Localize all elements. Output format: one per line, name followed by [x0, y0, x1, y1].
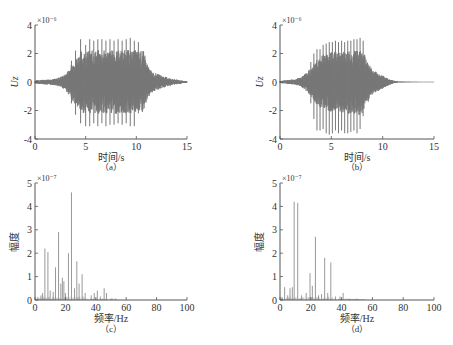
- chart-panel-a: 051015-4-2024×10⁻⁶时间/sUz（a）: [9, 16, 192, 172]
- x-tick-label: 80: [398, 302, 408, 313]
- y-tick-label: 0: [272, 77, 277, 88]
- y-tick-label: 2: [27, 48, 32, 59]
- y-tick-label: 0: [272, 295, 277, 306]
- x-tick-label: 5: [329, 141, 334, 152]
- y-exponent: ×10⁻⁶: [37, 16, 57, 25]
- x-tick-label: 0: [278, 302, 283, 313]
- x-axis-label: 频率/Hz: [340, 312, 375, 324]
- chart-panel-d: 020406080100012345×10⁻⁷频率/Hz幅度（d）: [253, 174, 442, 334]
- x-tick-label: 60: [121, 302, 131, 313]
- y-tick-label: -2: [269, 105, 277, 116]
- x-tick-label: 40: [337, 302, 347, 313]
- panel-caption: （a）: [100, 162, 122, 172]
- y-tick-label: 4: [272, 201, 277, 212]
- x-tick-label: 80: [152, 302, 162, 313]
- figure: 051015-4-2024×10⁻⁶时间/sUz（a）051015-4-2024…: [0, 0, 453, 345]
- y-tick-label: 3: [272, 224, 277, 235]
- y-tick-label: 1: [27, 271, 32, 282]
- y-tick-label: 5: [27, 178, 32, 189]
- chart-panel-c: 020406080100012345×10⁻⁷频率/Hz幅度（c）: [8, 174, 195, 334]
- y-tick-label: 2: [27, 248, 32, 259]
- y-tick-label: 2: [272, 48, 277, 59]
- x-tick-label: 100: [180, 302, 195, 313]
- y-exponent: ×10⁻⁷: [282, 174, 302, 183]
- signal-trace: [35, 50, 187, 114]
- x-tick-label: 60: [367, 302, 377, 313]
- y-tick-label: 3: [27, 224, 32, 235]
- y-tick-label: 4: [27, 201, 32, 212]
- y-axis-label: 幅度: [8, 232, 20, 252]
- y-axis-label: 幅度: [253, 232, 265, 252]
- y-exponent: ×10⁻⁶: [282, 16, 302, 25]
- y-tick-label: 0: [27, 77, 32, 88]
- x-tick-label: 0: [278, 141, 283, 152]
- y-tick-label: -2: [24, 105, 32, 116]
- y-axis-label: Uz: [254, 76, 265, 87]
- y-tick-label: -4: [269, 134, 277, 145]
- chart-panel-b: 051015-4-2024×10⁻⁶时间/sUz（b）: [254, 16, 439, 172]
- x-tick-label: 20: [60, 302, 70, 313]
- x-tick-label: 0: [33, 302, 38, 313]
- x-tick-label: 5: [83, 141, 88, 152]
- y-tick-label: -4: [24, 134, 32, 145]
- y-tick-label: 5: [272, 178, 277, 189]
- x-tick-label: 100: [427, 302, 442, 313]
- y-tick-label: 2: [272, 248, 277, 259]
- panel-caption: （b）: [346, 162, 369, 172]
- x-tick-label: 40: [91, 302, 101, 313]
- x-axis-label: 频率/Hz: [94, 312, 129, 324]
- x-tick-label: 0: [33, 141, 38, 152]
- panel-caption: （c）: [100, 324, 122, 334]
- y-exponent: ×10⁻⁷: [37, 174, 57, 183]
- y-axis-label: Uz: [9, 76, 20, 87]
- y-tick-label: 4: [27, 20, 32, 31]
- x-tick-label: 10: [378, 141, 388, 152]
- y-tick-label: 1: [272, 271, 277, 282]
- x-tick-label: 15: [182, 141, 192, 152]
- x-tick-label: 15: [429, 141, 439, 152]
- x-tick-label: 20: [306, 302, 316, 313]
- y-tick-label: 4: [272, 20, 277, 31]
- y-tick-label: 0: [27, 295, 32, 306]
- x-tick-label: 10: [131, 141, 141, 152]
- panel-caption: （d）: [346, 324, 369, 334]
